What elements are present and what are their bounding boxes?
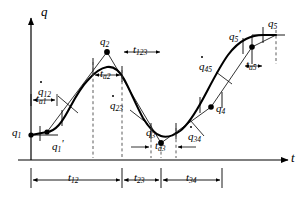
label-q1-prime: q1': [52, 141, 64, 152]
label-t23: t23: [134, 172, 145, 183]
label-t123: t123: [133, 44, 147, 55]
dashed-guide-lines: [93, 30, 276, 158]
trajectory-curve: [31, 35, 276, 137]
label-q4: q4: [216, 103, 225, 114]
label-t12: t12: [68, 172, 79, 183]
via-point-markers: [28, 44, 254, 146]
velocity-leader-lines: [58, 72, 232, 136]
blend-tick-marks: [40, 27, 263, 141]
label-q3: q3: [146, 127, 155, 138]
label-q1: q1: [12, 127, 21, 138]
label-ta3: ta3: [155, 140, 166, 151]
label-q2: q2: [100, 36, 109, 47]
axis-label-t: t: [291, 151, 295, 164]
label-qdot23: q23: [110, 100, 123, 111]
level-leader-lines: [31, 35, 285, 135]
label-t34: t34: [186, 172, 197, 183]
trajectory-figure: q t q1 q1' q2 q3 q4 q5' q5 q12 q23 q34 q…: [0, 0, 306, 198]
label-q5: q5: [268, 18, 277, 29]
label-qdot34: q34: [188, 131, 201, 142]
label-ta2: ta2: [100, 68, 111, 79]
axis-label-q: q: [41, 5, 48, 18]
label-ta5: ta5: [246, 59, 257, 70]
label-q5-prime: q5': [229, 31, 241, 42]
label-ta1: ta1: [36, 93, 47, 104]
label-qdot45: q45: [199, 61, 212, 72]
